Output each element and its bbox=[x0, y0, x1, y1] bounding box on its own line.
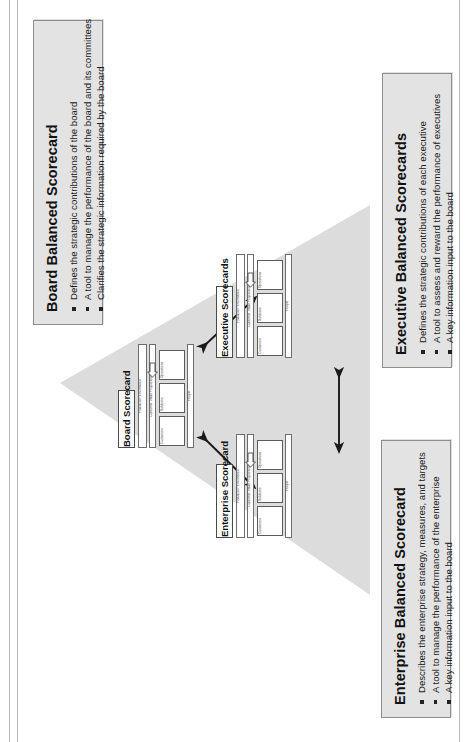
page-edge-line-right bbox=[459, 0, 460, 742]
hollow-up-arrow-icon bbox=[245, 452, 256, 468]
callout-enterprise-bullet-list: Describes the enterprise strategy, measu… bbox=[415, 453, 456, 705]
callout-enterprise-inner: Enterprise Balanced Scorecard Describes … bbox=[382, 441, 450, 717]
bar-customer-value-proposition: Customer Value Proposition bbox=[247, 254, 254, 358]
node-executive-scorecards[interactable]: Executive Scorecards Financial Performan… bbox=[216, 254, 292, 358]
cell-solutions-label: Solutions bbox=[259, 487, 262, 501]
callout-board-balanced-scorecard[interactable]: Board Balanced Scorecard Defines the str… bbox=[33, 20, 103, 325]
cell-customers-label: Customers bbox=[259, 338, 262, 354]
callout-executive-bullet-2: A tool to assess and reward the performa… bbox=[430, 86, 444, 355]
bar-financial-performance: Financial Performance bbox=[236, 434, 245, 538]
bar-financial-performance: Financial Performance bbox=[138, 344, 147, 448]
node-executive-scorecards-title: Executive Scorecards bbox=[216, 286, 233, 358]
hollow-up-arrow-icon bbox=[245, 272, 256, 288]
node-enterprise-scorecard-title: Enterprise Scorecard bbox=[216, 464, 233, 538]
cell-operations: Operations bbox=[159, 350, 185, 380]
cell-solutions: Solutions bbox=[257, 473, 283, 503]
bar-financial-performance: Financial Performance bbox=[236, 254, 245, 358]
node-board-scorecard-title: Board Scorecard bbox=[118, 390, 135, 448]
cell-solutions: Solutions bbox=[159, 383, 185, 413]
callout-board-inner: Board Balanced Scorecard Defines the str… bbox=[34, 21, 102, 324]
node-board-scorecard[interactable]: Board Scorecard Financial Performance Cu… bbox=[118, 344, 194, 448]
cell-customers: Customers bbox=[257, 506, 283, 536]
callout-board-bullet-1: Defines the strategic contributions of t… bbox=[67, 33, 81, 312]
diagram-page: Board Scorecard Financial Performance Cu… bbox=[0, 0, 468, 742]
cell-operations: Operations bbox=[257, 260, 283, 290]
hollow-up-arrow-icon bbox=[147, 362, 158, 378]
bar-people: People bbox=[285, 254, 292, 358]
callout-enterprise-balanced-scorecard[interactable]: Enterprise Balanced Scorecard Describes … bbox=[381, 440, 451, 718]
callout-board-heading: Board Balanced Scorecard bbox=[44, 33, 60, 312]
page-edge-line-left bbox=[9, 0, 10, 742]
callout-executive-balanced-scorecards[interactable]: Executive Balanced Scorecards Defines th… bbox=[382, 73, 452, 368]
bar-customer-value-proposition: Customer Value Proposition bbox=[247, 434, 254, 538]
bar-people: People bbox=[187, 344, 194, 448]
cell-customers: Customers bbox=[257, 326, 283, 356]
cell-solutions: Solutions bbox=[257, 293, 283, 323]
cell-solutions-label: Solutions bbox=[161, 397, 164, 411]
node-enterprise-scorecard[interactable]: Enterprise Scorecard Financial Performan… bbox=[216, 434, 292, 538]
cell-operations-label: Operations bbox=[259, 452, 262, 468]
callout-executive-bullet-list: Defines the strategic contributions of e… bbox=[416, 86, 457, 355]
callout-enterprise-heading: Enterprise Balanced Scorecard bbox=[392, 453, 408, 705]
cell-customers-label: Customers bbox=[161, 428, 164, 444]
callout-enterprise-bullet-1: Describes the enterprise strategy, measu… bbox=[415, 453, 429, 705]
callout-executive-inner: Executive Balanced Scorecards Defines th… bbox=[383, 74, 451, 367]
cell-customers-label: Customers bbox=[259, 518, 262, 534]
bar-customer-value-proposition: Customer Value Proposition bbox=[149, 344, 156, 448]
cell-solutions-label: Solutions bbox=[259, 307, 262, 321]
callout-enterprise-bullet-3: A key information input to the board bbox=[442, 453, 456, 705]
cell-customers: Customers bbox=[159, 416, 185, 446]
callout-executive-bullet-3: A key information input to the board bbox=[443, 86, 457, 355]
cell-operations: Operations bbox=[257, 440, 283, 470]
callout-board-bullet-list: Defines the strategic contributions of t… bbox=[67, 33, 108, 312]
callout-board-bullet-3: Clarifies the strategic information requ… bbox=[94, 33, 108, 312]
callout-enterprise-bullet-2: A tool to manage the performance of the … bbox=[429, 453, 443, 705]
cell-operations-label: Operations bbox=[161, 362, 164, 378]
callout-executive-bullet-1: Defines the strategic contributions of e… bbox=[416, 86, 430, 355]
bar-people: People bbox=[285, 434, 292, 538]
cell-operations-label: Operations bbox=[259, 272, 262, 288]
callout-executive-heading: Executive Balanced Scorecards bbox=[393, 86, 409, 355]
page-edge-line-left-2 bbox=[17, 0, 18, 742]
callout-board-bullet-2: A tool to manage the performance of the … bbox=[81, 33, 95, 312]
